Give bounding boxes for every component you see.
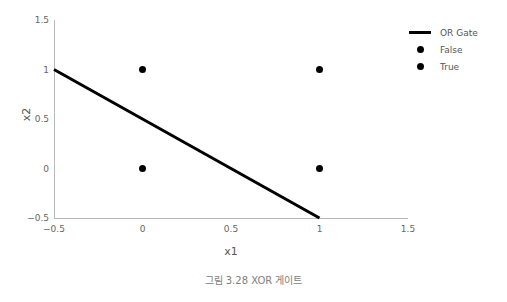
plot-area: 1.5 1 0.5 0 −0.5 −0.5 0 0.5 1 1.5 xyxy=(54,20,408,218)
x-tick-label: 0 xyxy=(140,225,146,234)
data-layer xyxy=(54,20,408,219)
legend-dot-icon xyxy=(406,46,434,53)
y-tick-label: 0.5 xyxy=(35,115,49,124)
legend-label: OR Gate xyxy=(440,28,478,38)
y-tick-label: 1 xyxy=(43,65,49,74)
legend: OR Gate False True xyxy=(406,24,504,75)
y-tick-label: −0.5 xyxy=(27,214,49,223)
legend-item-or-gate: OR Gate xyxy=(406,24,504,41)
y-tick-label: 1.5 xyxy=(35,16,49,25)
data-point xyxy=(139,165,146,172)
data-point xyxy=(316,66,323,73)
legend-label: False xyxy=(440,45,463,55)
legend-item-false: False xyxy=(406,41,504,58)
legend-item-true: True xyxy=(406,58,504,75)
x-tick-label: 1.5 xyxy=(401,225,415,234)
x-tick-label: 0.5 xyxy=(224,225,238,234)
x-axis-title: x1 xyxy=(54,245,408,258)
data-point xyxy=(316,165,323,172)
data-point xyxy=(139,66,146,73)
y-axis-title: x2 xyxy=(20,85,33,145)
figure: 1.5 1 0.5 0 −0.5 −0.5 0 0.5 1 1.5 x1 x2 xyxy=(0,0,507,302)
x-tick-label: −0.5 xyxy=(43,225,65,234)
legend-label: True xyxy=(440,62,459,72)
legend-line-icon xyxy=(406,31,434,34)
figure-caption: 그림 3.28 XOR 게이트 xyxy=(0,272,507,287)
or-gate-boundary-line xyxy=(54,20,408,219)
y-tick-label: 0 xyxy=(43,164,49,173)
x-tick-label: 1 xyxy=(317,225,323,234)
legend-dot-icon xyxy=(406,63,434,70)
